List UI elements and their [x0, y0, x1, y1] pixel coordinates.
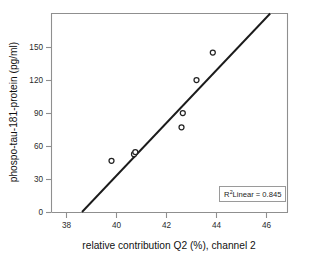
y-ticklabel-90: 90: [34, 109, 44, 118]
chart-canvas: 0 30 60 90 120 150 38 40 42 44 46: [0, 0, 310, 263]
r-squared-legend: R 2 Linear = 0.845: [220, 187, 286, 202]
x-ticklabel-46: 46: [262, 221, 272, 230]
x-ticklabel-44: 44: [212, 221, 222, 230]
y-ticklabel-30: 30: [34, 175, 44, 184]
x-ticklabel-42: 42: [162, 221, 172, 230]
data-point: [180, 111, 185, 116]
data-point: [133, 150, 138, 155]
y-ticklabel-60: 60: [34, 142, 44, 151]
y-axis-title: phospo-tau-181-protein (pg/ml): [8, 42, 19, 182]
y-ticklabel-120: 120: [29, 76, 43, 85]
data-point: [109, 158, 114, 163]
x-axis-title: relative contribution Q2 (%), channel 2: [82, 240, 256, 251]
y-ticklabel-0: 0: [38, 208, 43, 217]
x-ticklabel-40: 40: [112, 221, 122, 230]
y-ticklabel-150: 150: [29, 43, 43, 52]
data-point: [194, 78, 199, 83]
scatter-plot-figure: 0 30 60 90 120 150 38 40 42 44 46: [0, 0, 310, 263]
x-ticklabel-38: 38: [62, 221, 72, 230]
data-point: [179, 125, 184, 130]
data-point: [210, 50, 215, 55]
r-squared-value-text: Linear = 0.845: [233, 190, 282, 199]
